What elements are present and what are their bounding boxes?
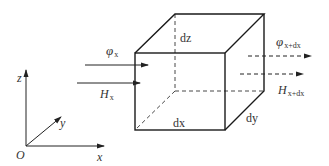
origin-label: O (16, 149, 25, 161)
z-axis-label: z (17, 72, 22, 84)
flux-in-symbol: φ (106, 43, 113, 58)
flux-out-subscript: x+dx (284, 41, 301, 50)
outgoing-arrows (240, 56, 311, 74)
cube-hidden-edges (135, 14, 264, 130)
dx-label: dx (173, 117, 185, 129)
flux-in-label: φx (106, 44, 118, 59)
flux-out-symbol: φ (276, 34, 283, 49)
x-axis-label: x (97, 151, 102, 163)
field-out-label: Hx+dx (278, 84, 304, 98)
coordinate-axes (26, 70, 104, 146)
field-in-label: Hx (100, 88, 114, 102)
dz-label: dz (180, 32, 191, 44)
field-out-subscript: x+dx (288, 89, 305, 98)
y-axis-label: y (60, 117, 65, 129)
volume-element-diagram: z y x O dz dx dy φx Hx φx+dx Hx+dx (0, 0, 329, 166)
field-in-subscript: x (110, 93, 114, 102)
field-out-symbol: H (278, 83, 287, 97)
incoming-arrows (77, 65, 148, 83)
y-axis (26, 117, 61, 146)
dy-label: dy (246, 112, 258, 124)
flux-in-subscript: x (114, 50, 118, 59)
cube-top-face (135, 14, 264, 53)
hidden-edge-diagonal (135, 91, 175, 130)
flux-out-label: φx+dx (276, 35, 301, 50)
cube-visible-edges (135, 14, 264, 130)
cube-right-face (225, 14, 264, 130)
field-in-symbol: H (100, 87, 109, 101)
